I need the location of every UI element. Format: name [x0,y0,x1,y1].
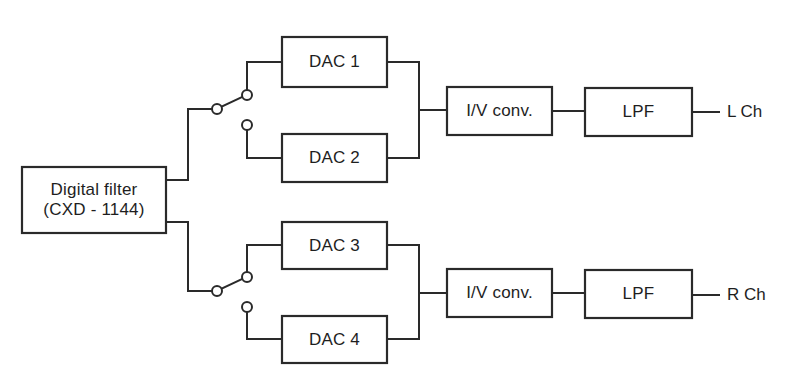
upper-switch-contact-dac1-icon [242,90,252,100]
wire-switch-to-dac1 [247,62,282,90]
lower-switch-pivot-icon [212,286,222,296]
dac3-label: DAC 3 [309,236,360,256]
dac2-block: DAC 2 [282,134,387,182]
wire-dac1-merge [387,62,419,158]
right-channel-output-label: R Ch [727,285,766,305]
dac3-block: DAC 3 [282,222,387,269]
iv-conv-right-block: I/V conv. [447,269,552,317]
lower-switch-contact-dac3-icon [242,272,252,282]
dac1-label: DAC 1 [309,52,360,72]
iv-conv-right-label: I/V conv. [466,283,533,303]
lower-switch-blade [221,279,242,289]
lpf-left-block: LPF [585,88,692,136]
wire-switch-to-dac4 [247,312,282,339]
wire-filter-to-lower-switch [166,222,211,291]
wire-switch-to-dac3 [247,245,282,272]
lpf-right-label: LPF [623,284,655,304]
iv-conv-left-label: I/V conv. [466,101,533,121]
upper-switch-contact-dac2-icon [242,120,252,130]
wire-dac3-merge [387,245,419,339]
upper-switch-blade [221,97,242,107]
left-channel-output-label: L Ch [727,102,762,122]
wire-filter-to-upper-switch [166,109,211,180]
digital-filter-block: Digital filter (CXD - 1144) [22,167,166,233]
dac4-block: DAC 4 [282,316,387,363]
digital-filter-part-number: (CXD - 1144) [43,200,144,220]
digital-filter-label: Digital filter [51,180,138,200]
dac4-label: DAC 4 [309,330,360,350]
lower-switch-contact-dac4-icon [242,302,252,312]
wire-switch-to-dac2 [247,130,282,158]
iv-conv-left-block: I/V conv. [447,87,552,135]
lpf-right-block: LPF [585,270,692,318]
dac2-label: DAC 2 [309,148,360,168]
upper-switch-pivot-icon [212,104,222,114]
lpf-left-label: LPF [623,102,655,122]
dac1-block: DAC 1 [282,37,387,87]
dac-block-diagram: Digital filter (CXD - 1144) DAC 1 DAC 2 … [0,0,796,381]
